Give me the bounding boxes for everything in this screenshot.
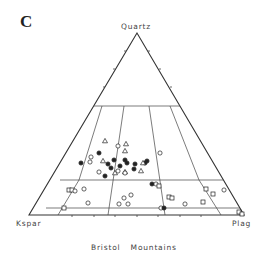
filled-circle-marker [145, 159, 149, 163]
open-circle-marker [73, 189, 77, 193]
filled-circle-marker [132, 167, 136, 171]
filled-circle-marker [79, 161, 83, 165]
open-triangle-marker [139, 168, 144, 172]
filled-circle-marker [109, 166, 113, 170]
open-circle-marker [126, 202, 130, 206]
filled-circle-marker [133, 162, 137, 166]
open-circle-marker [89, 155, 93, 159]
data-points [62, 138, 244, 216]
open-circle-marker [158, 151, 162, 155]
filled-circle-marker [103, 174, 107, 178]
open-circle-marker [117, 202, 121, 206]
open-circle-marker [86, 201, 90, 205]
open-circle-marker [97, 170, 101, 174]
open-square-marker [211, 192, 215, 196]
open-square-marker [157, 184, 161, 188]
open-circle-marker [82, 187, 86, 191]
filled-circle-marker [97, 151, 101, 155]
open-triangle-marker [123, 148, 128, 152]
open-circle-marker [222, 188, 226, 192]
filled-circle-marker [106, 162, 110, 166]
filled-circle-marker [162, 206, 166, 210]
open-triangle-marker [124, 141, 129, 145]
open-triangle-marker [103, 138, 108, 142]
filled-circle-marker [118, 164, 122, 168]
open-square-marker [62, 206, 66, 210]
open-circle-marker [129, 193, 133, 197]
open-circle-marker [116, 144, 120, 148]
triangle-frame [29, 33, 244, 215]
open-circle-marker [88, 160, 92, 164]
open-square-marker [201, 200, 205, 204]
open-triangle-marker [101, 158, 106, 162]
tick-marks [72, 51, 201, 217]
open-square-marker [204, 187, 208, 191]
open-square-marker [170, 196, 174, 200]
open-circle-marker [183, 202, 187, 206]
ternary-diagram [0, 0, 275, 263]
filled-circle-marker [125, 161, 129, 165]
open-square-marker [240, 212, 244, 216]
open-circle-marker [123, 171, 127, 175]
open-circle-marker [122, 196, 126, 200]
filled-circle-marker [112, 158, 116, 162]
filled-circle-marker [150, 182, 154, 186]
